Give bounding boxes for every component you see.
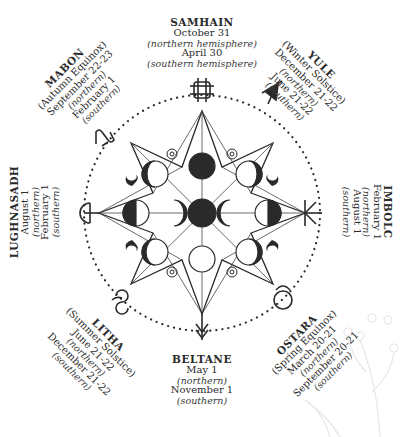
top-full-moon-dark: [189, 153, 215, 179]
sabbat-label-lughnasadh: LUGHNASADH August 1 (northern) February …: [9, 162, 61, 262]
north-label: (northern): [361, 162, 371, 262]
top-left-gibbous: [142, 161, 168, 187]
right-quarter-moon: [255, 200, 281, 226]
bottom-right-crescent: [236, 239, 262, 265]
triskele-icon: [167, 149, 177, 159]
triskele-icon: [167, 267, 177, 277]
top-right-gibbous: [236, 161, 262, 187]
south-label: (southern): [142, 396, 262, 406]
north-date: August 1: [20, 162, 31, 262]
swirl-icon: [266, 175, 278, 186]
swirl-icon: [126, 240, 138, 251]
samhain-knot-icon: [190, 78, 214, 102]
north-date: May 1: [142, 365, 262, 376]
south-label: (southern): [341, 162, 351, 262]
moon-phases: [123, 153, 281, 272]
sabbat-label-imbolc: IMBOLC February 1 (northern) August 1 (s…: [341, 162, 393, 262]
bottom-left-crescent: [142, 239, 168, 265]
sabbat-name: IMBOLC: [382, 162, 393, 262]
lughnasadh-sickle-icon: [80, 203, 100, 223]
sabbat-label-beltane: BELTANE May 1 (northern) November 1 (sou…: [142, 354, 262, 406]
beltane-arrow-icon: [196, 312, 208, 340]
north-date: October 31: [137, 28, 267, 39]
center-new-moon: [188, 199, 216, 227]
south-label: (southern): [51, 162, 61, 262]
north-date: February 1: [371, 162, 382, 262]
south-date: August 1: [351, 162, 362, 262]
ostara-taurus-icon: [274, 286, 292, 309]
swirl-icon: [266, 240, 278, 251]
triskele-icon: [227, 267, 237, 277]
swirl-icon: [126, 175, 138, 186]
triskele-icon: [227, 149, 237, 159]
left-quarter-moon: [123, 200, 149, 226]
bottom-full-moon-light: [189, 246, 215, 272]
